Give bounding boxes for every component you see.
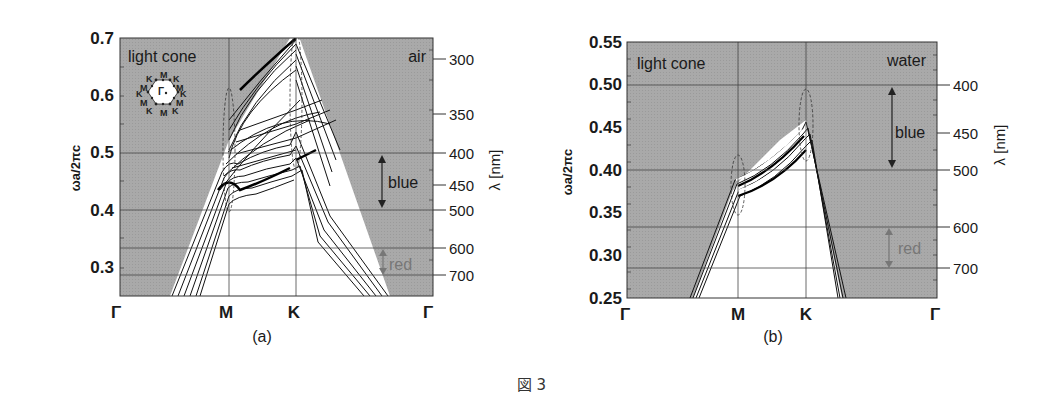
wavelength-tick: 450	[449, 177, 474, 194]
y-tick: 0.3	[90, 258, 114, 277]
bz-label-k: K	[172, 106, 179, 116]
y-axis-label: ωa/2πc	[68, 145, 83, 191]
wavelength-tick: 400	[953, 77, 978, 94]
bz-label-m: M	[160, 70, 168, 80]
blue-label: blue	[388, 174, 418, 191]
panel-a: K M K M K M K M K M K M Γ light cone air…	[0, 0, 520, 364]
plot-area-b	[627, 42, 937, 298]
figure-caption: 図 3	[0, 373, 1063, 394]
wavelength-tick: 500	[953, 162, 978, 179]
x-tick-k: K	[288, 303, 301, 322]
blue-label: blue	[895, 124, 925, 141]
y-tick: 0.40	[589, 161, 622, 180]
bz-label-m: M	[140, 98, 148, 108]
medium-label: air	[408, 48, 426, 65]
wavelength-tick: 700	[953, 260, 978, 277]
x-tick-m: M	[219, 303, 233, 322]
bz-label-m: M	[160, 108, 168, 118]
wavelength-tick: 450	[953, 125, 978, 142]
y-tick: 0.4	[90, 201, 114, 220]
red-label: red	[898, 240, 921, 257]
medium-label: water	[886, 52, 927, 69]
wavelength-tick: 300	[449, 51, 474, 68]
panel-b: light cone water blue red 0.55 0.50 0.45…	[500, 0, 1063, 364]
y-tick: 0.45	[589, 118, 622, 137]
red-label: red	[389, 256, 412, 273]
x-tick-k: K	[800, 305, 813, 324]
y-tick: 0.5	[90, 143, 114, 162]
y-axis-label: ωa/2πc	[560, 149, 575, 195]
panel-label-a: (a)	[252, 328, 272, 345]
y-tick: 0.50	[589, 75, 622, 94]
x-tick-gamma: Γ	[111, 303, 121, 322]
y-tick: 0.30	[589, 246, 622, 265]
x-tick-m: M	[731, 305, 745, 324]
x-tick-gamma: Γ	[620, 305, 630, 324]
bz-label-gamma: Γ	[158, 86, 164, 97]
wavelength-tick: 600	[953, 219, 978, 236]
y-tick: 0.55	[589, 33, 622, 52]
wavelength-tick: 700	[449, 267, 474, 284]
wavelength-tick: 400	[449, 145, 474, 162]
right-axis-label: λ [nm]	[991, 125, 1008, 166]
light-cone-label: light cone	[637, 55, 706, 72]
panel-label-b: (b)	[763, 328, 783, 345]
y-tick: 0.35	[589, 203, 622, 222]
wavelength-tick: 350	[449, 106, 474, 123]
x-tick-gamma: Γ	[423, 303, 433, 322]
y-tick: 0.25	[589, 289, 622, 308]
y-tick: 0.7	[90, 29, 114, 48]
bz-label-m: M	[140, 83, 148, 93]
light-cone-label: light cone	[128, 48, 197, 65]
wavelength-tick: 600	[449, 240, 474, 257]
y-tick: 0.6	[90, 86, 114, 105]
wavelength-tick: 500	[449, 202, 474, 219]
x-tick-gamma: Γ	[930, 305, 940, 324]
